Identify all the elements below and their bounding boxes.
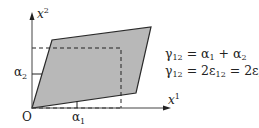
alpha2-label: α2 (14, 65, 27, 81)
deformed-element (32, 27, 151, 108)
equation-2: γ12 = 2ε12 = 2ε21 (165, 65, 259, 79)
y-axis-label: x2 (37, 6, 49, 21)
alpha1-label: α1 (72, 110, 85, 126)
origin-label: O (22, 110, 32, 124)
equation-1: γ12 = α1 + α2 (165, 48, 247, 62)
shear-diagram: x2 x1 O α2 α1 (0, 0, 259, 128)
x-axis-label: x1 (168, 92, 180, 107)
y-axis-arrow-icon (30, 12, 35, 20)
